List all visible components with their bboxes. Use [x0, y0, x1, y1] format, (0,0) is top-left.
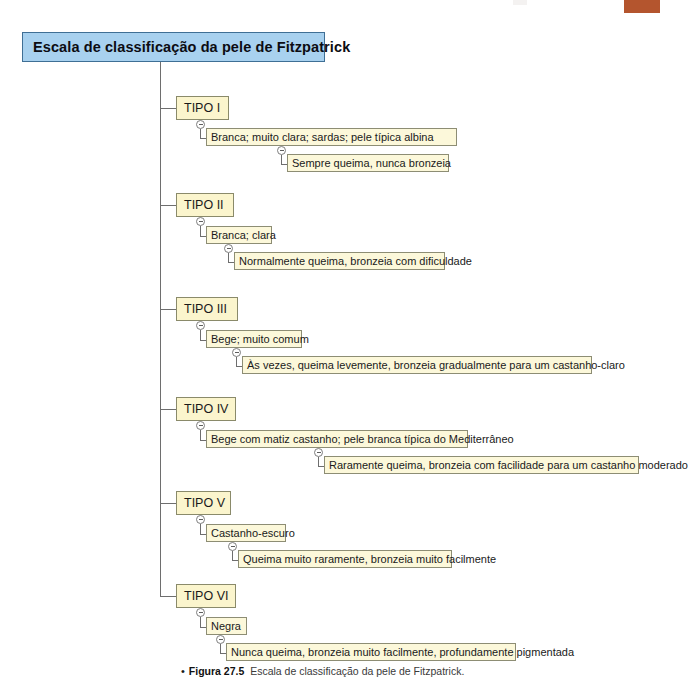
fitzpatrick-scale-diagram: Escala de classificação da pele de Fitzp…	[0, 0, 660, 660]
link-tipo-i-to-desc-v	[200, 129, 201, 138]
diagram-root-title-box[interactable]: Escala de classificação da pele de Fitzp…	[22, 32, 325, 62]
node-tipo-v-effect-label: Queima muito raramente, bronzeia muito f…	[243, 554, 496, 565]
node-tipo-ii[interactable]: TIPO II	[176, 193, 234, 217]
link-tipo-iv-to-desc-v	[200, 430, 201, 440]
node-tipo-ii-description-label: Branca; clara	[211, 230, 276, 241]
node-tipo-iii-effect-label: Às vezes, queima levemente, bronzeia gra…	[247, 360, 625, 371]
node-tipo-v-description[interactable]: Castanho-escuro	[206, 524, 286, 542]
collapse-minus-icon-tipo-i[interactable]	[196, 120, 205, 129]
node-tipo-iv[interactable]: TIPO IV	[176, 397, 236, 421]
node-tipo-i-description-label: Branca; muito clara; sardas; pele típica…	[211, 132, 434, 143]
collapse-minus-icon-tipo-ii-desc[interactable]	[224, 244, 233, 253]
node-tipo-vi-description[interactable]: Negra	[206, 617, 247, 635]
link-tipo-iii-to-desc-v	[200, 330, 201, 340]
collapse-minus-icon-tipo-iv-desc[interactable]	[314, 448, 323, 457]
node-tipo-iv-effect[interactable]: Raramente queima, bronzeia com facilidad…	[324, 456, 639, 474]
node-tipo-ii-effect[interactable]: Normalmente queima, bronzeia com dificul…	[234, 252, 445, 270]
link-tipo-vi-desc-to-effect-v	[220, 644, 221, 653]
branch-connector-tipo-iii	[160, 309, 176, 310]
node-tipo-i[interactable]: TIPO I	[176, 96, 229, 120]
node-tipo-iii-description[interactable]: Bege; muito comum	[206, 330, 302, 348]
trunk-vertical-line	[160, 62, 161, 596]
node-tipo-iii-description-label: Bege; muito comum	[211, 334, 309, 345]
link-tipo-ii-to-desc-v	[200, 226, 201, 236]
node-tipo-vi-effect-label: Nunca queima, bronzeia muito facilmente,…	[231, 647, 574, 658]
node-tipo-iii-effect[interactable]: Às vezes, queima levemente, bronzeia gra…	[242, 356, 592, 374]
link-tipo-iv-desc-to-effect-v	[318, 457, 319, 466]
node-tipo-i-effect-label: Sempre queima, nunca bronzeia	[292, 158, 451, 169]
node-tipo-vi-description-label: Negra	[211, 621, 241, 632]
branch-connector-tipo-iv	[160, 409, 176, 410]
node-tipo-v-effect[interactable]: Queima muito raramente, bronzeia muito f…	[238, 550, 452, 568]
branch-connector-tipo-ii	[160, 205, 176, 206]
collapse-minus-icon-tipo-ii[interactable]	[196, 217, 205, 226]
caption-bullet-icon: •	[181, 665, 185, 677]
node-tipo-vi-effect[interactable]: Nunca queima, bronzeia muito facilmente,…	[226, 643, 516, 661]
node-tipo-i-label: TIPO I	[184, 102, 220, 115]
node-tipo-iv-label: TIPO IV	[184, 403, 228, 416]
node-tipo-v[interactable]: TIPO V	[176, 491, 231, 515]
branch-connector-tipo-vi	[160, 596, 176, 597]
node-tipo-ii-description[interactable]: Branca; clara	[206, 226, 272, 244]
node-tipo-iv-description[interactable]: Bege com matiz castanho; pele branca típ…	[206, 430, 468, 448]
collapse-minus-icon-tipo-vi-desc[interactable]	[216, 635, 225, 644]
link-tipo-vi-to-desc-v	[200, 617, 201, 627]
collapse-minus-icon-tipo-iii-desc[interactable]	[232, 348, 241, 357]
node-tipo-iii-label: TIPO III	[184, 303, 227, 316]
collapse-minus-icon-tipo-iii[interactable]	[196, 321, 205, 330]
collapse-minus-icon-tipo-i-desc[interactable]	[277, 146, 286, 155]
link-tipo-i-desc-to-effect-v	[281, 155, 282, 164]
collapse-minus-icon-tipo-vi[interactable]	[196, 608, 205, 617]
collapse-minus-icon-tipo-iv[interactable]	[196, 421, 205, 430]
node-tipo-ii-effect-label: Normalmente queima, bronzeia com dificul…	[239, 256, 472, 267]
node-tipo-iv-effect-label: Raramente queima, bronzeia com facilidad…	[329, 460, 688, 471]
node-tipo-vi[interactable]: TIPO VI	[176, 584, 236, 608]
node-tipo-i-effect[interactable]: Sempre queima, nunca bronzeia	[287, 154, 449, 172]
link-tipo-iii-desc-to-effect-v	[236, 357, 237, 366]
node-tipo-iii[interactable]: TIPO III	[176, 297, 238, 321]
caption-figure-description: Escala de classificação da pele de Fitzp…	[250, 665, 464, 677]
node-tipo-ii-label: TIPO II	[184, 199, 224, 212]
node-tipo-vi-label: TIPO VI	[184, 590, 228, 603]
collapse-minus-icon-tipo-v-desc[interactable]	[228, 542, 237, 551]
branch-connector-tipo-i	[160, 108, 176, 109]
node-tipo-iv-description-label: Bege com matiz castanho; pele branca típ…	[211, 434, 514, 445]
node-tipo-i-description[interactable]: Branca; muito clara; sardas; pele típica…	[206, 128, 457, 146]
branch-connector-tipo-v	[160, 503, 176, 504]
link-tipo-v-to-desc-v	[200, 524, 201, 534]
diagram-root-title-label: Escala de classificação da pele de Fitzp…	[33, 40, 350, 55]
link-tipo-v-desc-to-effect-v	[232, 551, 233, 560]
node-tipo-v-label: TIPO V	[184, 497, 225, 510]
caption-figure-number: Figura 27.5	[189, 665, 244, 677]
link-tipo-ii-desc-to-effect-v	[228, 253, 229, 262]
figure-caption: •Figura 27.5 Escala de classificação da …	[181, 665, 464, 678]
collapse-minus-icon-tipo-v[interactable]	[196, 515, 205, 524]
node-tipo-v-description-label: Castanho-escuro	[211, 528, 295, 539]
